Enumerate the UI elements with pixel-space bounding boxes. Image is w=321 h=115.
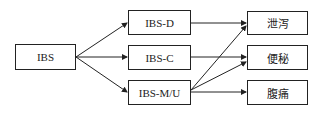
node-ibs: IBS bbox=[15, 44, 76, 70]
node-diarrhea: 泄泻 bbox=[247, 11, 308, 35]
node-abdominal-pain: 腹痛 bbox=[247, 80, 308, 105]
node-label: 腹痛 bbox=[267, 85, 289, 101]
node-label: 便秘 bbox=[267, 50, 289, 66]
node-ibs-c: IBS-C bbox=[128, 45, 191, 70]
node-label: IBS-M/U bbox=[139, 87, 181, 99]
node-ibs-mu: IBS-M/U bbox=[128, 80, 191, 105]
node-label: IBS bbox=[37, 51, 54, 63]
node-constipation: 便秘 bbox=[247, 45, 308, 70]
node-label: IBS-C bbox=[145, 52, 173, 64]
node-label: 泄泻 bbox=[267, 15, 289, 31]
node-label: IBS-D bbox=[145, 17, 174, 29]
node-ibs-d: IBS-D bbox=[128, 10, 191, 35]
